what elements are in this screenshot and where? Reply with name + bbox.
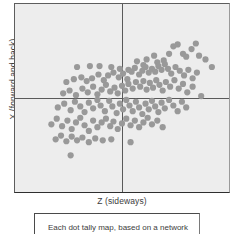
caption-text: Each dot tally map, based on a network	[40, 223, 196, 233]
scatter-plot-figure: X (forward and back) Z (sideways) Each d…	[0, 0, 234, 234]
scatter-points-layer	[15, 4, 229, 192]
plot-area	[14, 3, 230, 193]
plot-inner	[15, 4, 229, 192]
caption-box: Each dot tally map, based on a network	[34, 213, 200, 234]
x-axis-label: Z (sideways)	[14, 196, 230, 206]
